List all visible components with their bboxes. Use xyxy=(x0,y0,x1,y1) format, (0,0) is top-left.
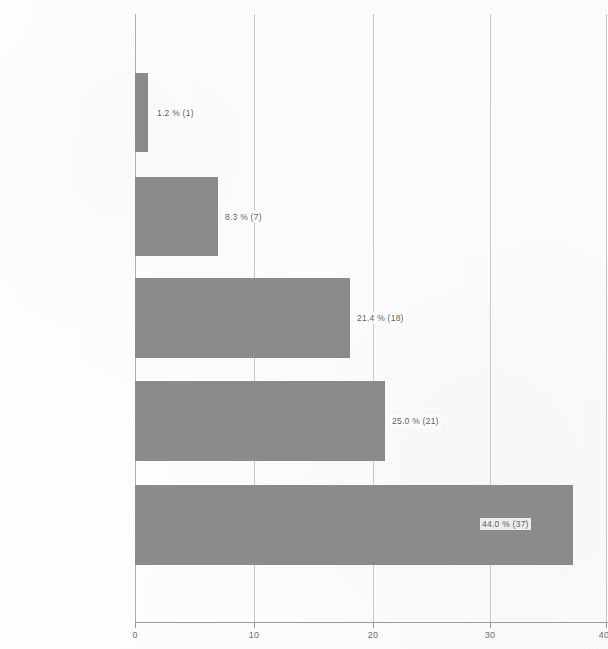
bar-emotional-engagement[interactable] xyxy=(135,278,350,358)
bar-value-label: 8.3 % (7) xyxy=(223,211,264,223)
y-tick-3 xyxy=(135,421,142,422)
bar-row: 25.0 % (21) xyxy=(135,381,608,461)
bar-value-label: 25.0 % (21) xyxy=(390,415,441,427)
x-tick-label-20: 20 xyxy=(368,630,378,640)
bar-row: 21.4 % (18) xyxy=(135,278,608,358)
bar-value-label: 44.0 % (37) xyxy=(480,518,531,530)
bar-row: 8.3 % (7) xyxy=(135,177,608,256)
bar-proclamation-of-the-word[interactable] xyxy=(135,177,218,256)
x-tick-label-0: 0 xyxy=(132,630,137,640)
bar-chart: 0 10 20 30 40 1.2 % (1) Opportunity for … xyxy=(0,0,608,649)
bar-value-label: 1.2 % (1) xyxy=(155,107,196,119)
bar-row: 1.2 % (1) xyxy=(135,73,608,152)
bar-value-label: 21.4 % (18) xyxy=(355,312,406,324)
x-tick-30 xyxy=(490,622,491,628)
y-tick-0 xyxy=(135,112,142,113)
x-tick-label-10: 10 xyxy=(249,630,259,640)
y-tick-4 xyxy=(135,525,142,526)
x-tick-20 xyxy=(373,622,374,628)
bar-row: 44.0 % (37) xyxy=(135,485,608,565)
x-tick-0 xyxy=(135,622,136,628)
x-tick-label-40: 40 xyxy=(599,630,608,640)
bar-preparation-for-preaching[interactable] xyxy=(135,381,385,461)
x-tick-label-30: 30 xyxy=(485,630,495,640)
y-tick-2 xyxy=(135,318,142,319)
x-tick-10 xyxy=(254,622,255,628)
x-tick-40 xyxy=(606,622,607,628)
y-tick-1 xyxy=(135,216,142,217)
x-axis-line xyxy=(135,622,608,623)
